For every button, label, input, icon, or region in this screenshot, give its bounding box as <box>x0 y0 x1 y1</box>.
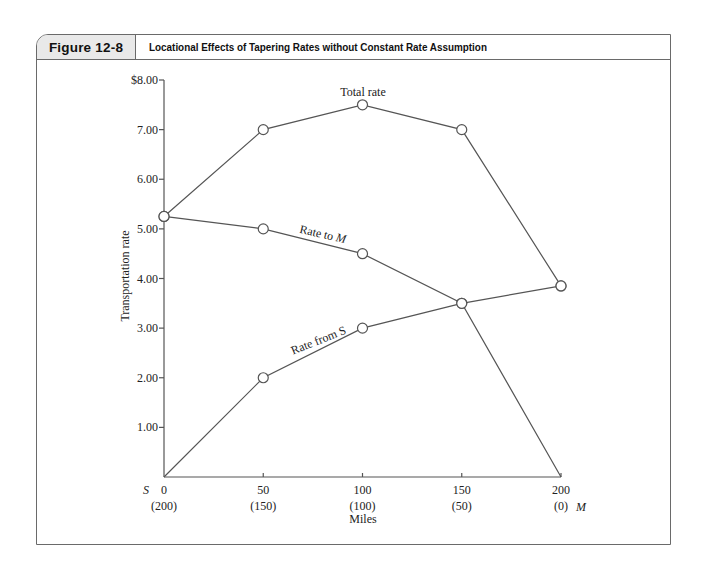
y-tick-label: 2.00 <box>137 371 158 385</box>
x-tick-label: 0 <box>161 483 167 497</box>
x-tick-label: 150 <box>453 483 471 497</box>
data-point-marker <box>258 373 268 383</box>
x-secondary-tick-label: (200) <box>151 499 177 513</box>
rate-to-m-label: Rate to M <box>298 222 348 247</box>
x-secondary-tick-label: (150) <box>250 499 276 513</box>
y-tick-label: 4.00 <box>137 272 158 286</box>
data-point-marker <box>258 125 268 135</box>
y-tick-label: $8.00 <box>131 73 158 87</box>
x-secondary-tick-label: (50) <box>452 499 472 513</box>
x-tick-label: 50 <box>257 483 269 497</box>
y-tick-label: 7.00 <box>137 123 158 137</box>
total-rate-label: Total rate <box>340 85 385 99</box>
y-axis-title: Transportation rate <box>118 230 132 321</box>
x-secondary-tick-label: (0) <box>554 499 568 513</box>
axes <box>159 80 561 477</box>
data-point-marker <box>457 125 467 135</box>
series-lines <box>164 105 561 477</box>
data-point-marker <box>457 298 467 308</box>
y-tick-labels: $8.007.006.005.004.003.002.001.00 <box>131 73 158 434</box>
data-point-marker <box>358 100 368 110</box>
x-tick-label: 100 <box>354 483 372 497</box>
rate-from-s-line <box>164 286 561 477</box>
x-secondary-tick-label: (100) <box>350 499 376 513</box>
x-tick-labels: 0(200)50(150)100(100)150(50)200(0) <box>151 483 570 513</box>
y-tick-label: 5.00 <box>137 222 158 236</box>
x-tick-label: 200 <box>552 483 570 497</box>
data-point-marker <box>358 323 368 333</box>
data-point-marker <box>358 249 368 259</box>
s-endpoint-label: S <box>143 483 149 497</box>
line-chart: $8.007.006.005.004.003.002.001.00 0(200)… <box>0 0 705 573</box>
data-point-marker <box>159 211 169 221</box>
m-endpoint-label: M <box>575 500 587 514</box>
y-tick-label: 3.00 <box>137 321 158 335</box>
data-point-marker <box>556 281 566 291</box>
x-axis-title: Miles <box>349 512 377 526</box>
y-tick-label: 1.00 <box>137 420 158 434</box>
series-markers <box>159 100 566 383</box>
data-point-marker <box>258 224 268 234</box>
y-tick-label: 6.00 <box>137 172 158 186</box>
